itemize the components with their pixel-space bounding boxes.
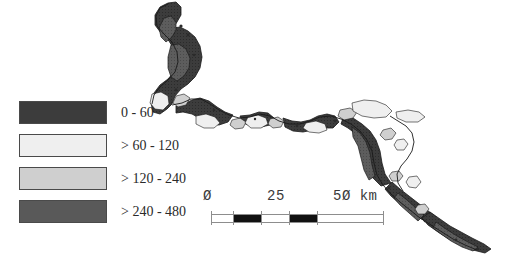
legend-label-240-480: > 240 - 480 xyxy=(121,205,186,219)
legend-swatch-120-240 xyxy=(19,167,107,190)
scale-bar-segment-filled-2 xyxy=(289,215,317,222)
legend-label-60-120: > 60 - 120 xyxy=(121,139,179,153)
legend-label-120-240: > 120 - 240 xyxy=(121,172,186,186)
scale-bar-tick-a xyxy=(233,211,234,225)
map-figure-page: 0 - 60 > 60 - 120 > 120 - 240 > 240 - 48… xyxy=(0,0,517,267)
legend-item: 0 - 60 xyxy=(19,101,209,124)
scale-tick-label-25: 25 xyxy=(267,188,285,205)
scale-bar-tick-start xyxy=(211,211,212,225)
scale-bar-segment-filled-1 xyxy=(233,215,261,222)
scale-tick-label-50: 5Ø km xyxy=(333,188,378,205)
scale-bar-tick-end xyxy=(383,211,384,225)
legend-swatch-0-60 xyxy=(19,101,107,124)
legend-item: > 240 - 480 xyxy=(19,200,209,223)
legend-item: > 120 - 240 xyxy=(19,167,209,190)
scale-bar-tick-b xyxy=(261,211,262,225)
distance-scale-bar: Ø 25 5Ø km xyxy=(205,188,400,225)
scale-tick-label-0: Ø xyxy=(203,188,212,205)
legend-swatch-60-120 xyxy=(19,134,107,157)
scale-bar-tick-labels: Ø 25 5Ø km xyxy=(205,188,400,207)
legend-swatch-240-480 xyxy=(19,200,107,223)
legend-item: > 60 - 120 xyxy=(19,134,209,157)
scale-bar-tick-c xyxy=(289,211,290,225)
legend-label-0-60: 0 - 60 xyxy=(121,106,154,120)
map-legend: 0 - 60 > 60 - 120 > 120 - 240 > 240 - 48… xyxy=(19,101,209,223)
scale-bar-tick-mid xyxy=(317,211,318,225)
scale-bar-graphic xyxy=(205,211,390,225)
